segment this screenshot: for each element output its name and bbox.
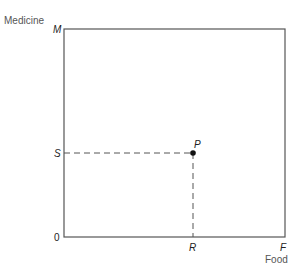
point-p-marker: [190, 150, 196, 156]
x-axis-title: Food: [265, 254, 288, 265]
point-label: P: [194, 139, 201, 150]
y-axis-title: Medicine: [4, 15, 44, 26]
y-max-label: M: [53, 24, 62, 35]
origin-label: 0: [54, 232, 60, 243]
point-x-label: R: [189, 242, 196, 253]
bounding-box: [64, 29, 285, 237]
production-possibility-diagram: Medicine M S 0 P R F Food: [0, 0, 302, 269]
x-max-label: F: [280, 242, 287, 253]
point-y-label: S: [54, 148, 61, 159]
